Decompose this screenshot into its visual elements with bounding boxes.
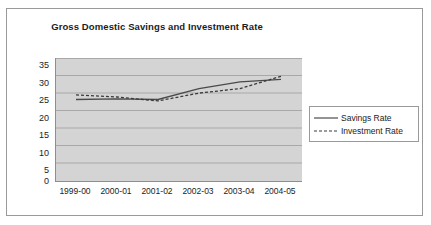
- y-axis-tick-15: 15: [7, 131, 49, 140]
- x-axis-tick-2004-05: 2004-05: [250, 187, 310, 196]
- plot-area: [55, 58, 302, 182]
- y-axis-tick-10: 10: [7, 149, 49, 158]
- gridlines: [56, 59, 302, 164]
- y-axis-tick-35: 35: [7, 61, 49, 70]
- y-axis-tick-25: 25: [7, 96, 49, 105]
- y-axis-tick-20: 20: [7, 114, 49, 123]
- chart-container: Gross Domestic Savings and Investment Ra…: [6, 8, 423, 216]
- legend-label-investment-rate: Investment Rate: [339, 126, 403, 136]
- dashed-line-icon: [313, 126, 339, 136]
- legend-label-savings-rate: Savings Rate: [339, 113, 392, 123]
- y-axis-tick-30: 30: [7, 79, 49, 88]
- chart-legend: Savings Rate Investment Rate: [309, 106, 419, 142]
- legend-item-savings-rate: Savings Rate: [313, 111, 415, 124]
- series-line-investment-rate: [76, 76, 281, 101]
- y-axis-tick-5: 5: [7, 166, 49, 175]
- y-axis-tick-0: 0: [7, 177, 49, 186]
- chart-title: Gross Domestic Savings and Investment Ra…: [7, 21, 307, 32]
- legend-item-investment-rate: Investment Rate: [313, 124, 415, 137]
- solid-line-icon: [313, 113, 339, 123]
- plot-svg: [56, 58, 302, 181]
